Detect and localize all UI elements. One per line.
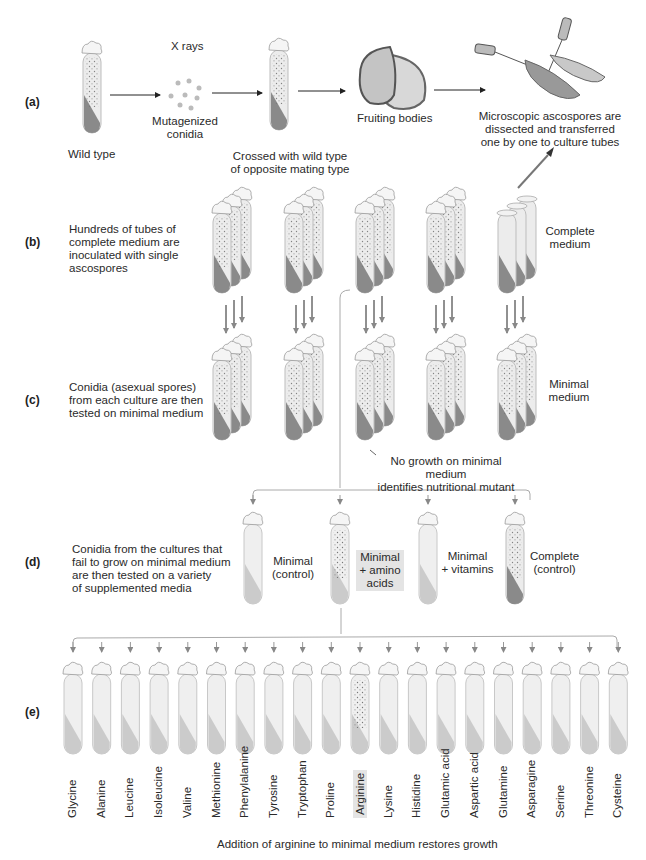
panel-d-description: Conidia from the cultures that fail to g… [72,543,231,595]
panel-label-e: (e) [25,705,40,719]
fruiting-bodies-label: Fruiting bodies [357,112,432,125]
tube-isoleucine [149,662,169,754]
amino-acid-label: Methionine [210,762,222,818]
mutagenized-conidia-label: Mutagenized conidia [150,115,220,141]
tube-glycine [63,662,83,754]
dissection-drawing [475,17,605,98]
amino-acid-label: Phenylalanine [238,746,250,818]
panel-c-description: Conidia (asexual spores) from each cultu… [69,381,203,420]
amino-acid-label: Lysine [382,785,394,818]
amino-acid-label: Tyrosine [267,775,279,818]
no-growth-note: No growth on minimal medium identifies n… [371,455,521,494]
tube-threonine [580,662,600,754]
amino-acid-label: Cysteine [611,773,623,818]
tube-valine [178,662,198,754]
amino-acid-label: Histidine [410,774,422,818]
complete-medium-label: Complete medium [540,225,600,251]
tube-lysine [379,662,399,754]
amino-acid-label: Proline [324,782,336,818]
amino-acid-label: Isoleucine [152,766,164,818]
amino-acid-label: Leucine [123,778,135,818]
tube-label-complete-control: Complete (control) [527,550,582,576]
tube-methionine [207,662,227,754]
panel-label-a: (a) [25,95,40,109]
tube-glutamine [494,662,514,754]
tube-cysteine [608,662,628,754]
amino-acid-label: Alanine [95,780,107,818]
tube-proline [321,662,341,754]
tube-aspartic-acid [465,662,485,754]
panel-b-description: Hundreds of tubes of complete medium are… [69,223,180,275]
tube-label-minimal-amino-acids: Minimal + amino acids [356,550,404,591]
panel-label-b: (b) [25,235,40,249]
tube-arginine [350,662,370,754]
ascospores-label: Microscopic ascospores are dissected and… [475,110,625,149]
amino-acid-label: Glutamine [497,766,509,818]
minimal-medium-label: Minimal medium [544,378,594,404]
tube-leucine [120,662,140,754]
xrays-label: X rays [171,40,204,53]
tube-glutamic-acid [436,662,456,754]
tube-label-minimal-vitamins: Minimal + vitamins [440,550,495,576]
crossed-label: Crossed with wild type of opposite matin… [225,150,355,176]
wild-type-label: Wild type [68,148,115,161]
amino-acid-label: Tryptophan [296,760,308,818]
tube-serine [551,662,571,754]
panel-label-c: (c) [25,393,40,407]
tube-tryptophan [293,662,313,754]
amino-acid-label: Valine [181,787,193,818]
amino-acid-label: Glutamic acid [439,748,451,818]
amino-acid-label: Threonine [583,766,595,818]
amino-acid-label: Asparagine [525,760,537,818]
tube-asparagine [522,662,542,754]
amino-acid-label: Glycine [66,780,78,818]
tube-label-minimal-control: Minimal (control) [268,555,318,581]
tube-tyrosine [264,662,284,754]
amino-acid-label: Arginine [353,770,367,818]
amino-acid-label: Serine [554,785,566,818]
fruiting-body-drawing [360,47,426,109]
amino-acid-label: Aspartic acid [468,752,480,818]
tube-phenylalanine [235,662,255,754]
tube-histidine [407,662,427,754]
tube-alanine [92,662,112,754]
panel-label-d: (d) [25,555,40,569]
conclusion-caption: Addition of arginine to minimal medium r… [217,838,498,851]
